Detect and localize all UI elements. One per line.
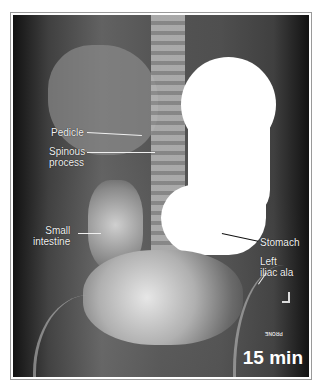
prone-marker: PRONE — [265, 331, 283, 337]
label-small-intestine: Small intestine — [33, 225, 70, 247]
radiograph-image: Pedicle Spinous process Small intestine … — [13, 15, 309, 377]
time-label: 15 min — [243, 347, 303, 369]
label-stomach: Stomach — [260, 237, 299, 248]
label-pedicle: Pedicle — [51, 127, 84, 138]
side-marker-l — [282, 292, 290, 303]
leader-spinous-process — [87, 152, 155, 153]
leader-small-intestine — [78, 233, 101, 234]
label-spinous-process: Spinous process — [49, 146, 85, 168]
